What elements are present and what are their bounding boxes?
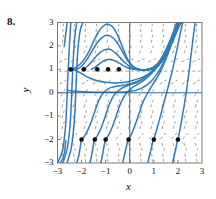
y-tick-label: 0 [36,87,54,97]
x-tick-label: 2 [168,166,188,176]
y-axis-label: y [19,88,31,93]
y-tick-label: 2 [36,40,54,50]
x-tick-label: 1 [144,166,164,176]
y-tick-label: 3 [36,17,54,27]
slope-field-figure: 8. x y −3−2−10123 −3−2−10123 [0,0,216,199]
x-tick-label: −1 [96,166,116,176]
y-tick-label: 1 [36,63,54,73]
exercise-number: 8. [7,15,15,27]
x-tick-label: 0 [120,166,140,176]
y-tick-label: −2 [36,134,54,144]
x-tick-label: 3 [192,166,212,176]
y-tick-label: −3 [36,157,54,167]
x-tick-label: −3 [48,166,68,176]
x-axis-label: x [126,180,131,192]
y-tick-label: −1 [36,110,54,120]
x-tick-label: −2 [72,166,92,176]
